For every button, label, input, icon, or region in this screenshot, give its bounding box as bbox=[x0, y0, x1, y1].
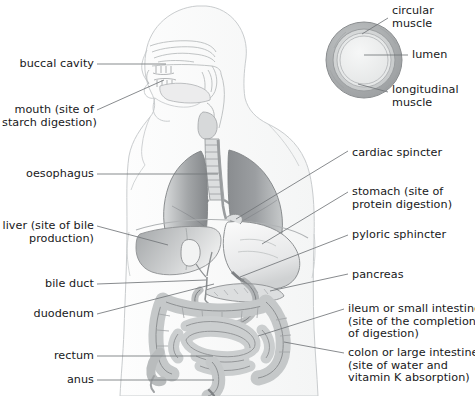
label-circular-muscle: circular muscle bbox=[392, 5, 474, 30]
label-oesophagus: oesophagus bbox=[2, 168, 94, 181]
diagram-canvas: buccal cavity mouth (site of starch dige… bbox=[0, 0, 475, 396]
label-anus: anus bbox=[2, 374, 94, 387]
label-lumen: lumen bbox=[412, 49, 474, 62]
label-pancreas: pancreas bbox=[352, 269, 475, 282]
label-pyloric-sphincter: pyloric sphincter bbox=[352, 229, 475, 242]
label-stomach: stomach (site of protein digestion) bbox=[352, 186, 475, 211]
label-liver: liver (site of bile production) bbox=[2, 220, 94, 245]
label-mouth: mouth (site of starch digestion) bbox=[2, 104, 94, 129]
gut-cross-section-inset bbox=[326, 22, 402, 98]
label-bile-duct: bile duct bbox=[2, 278, 94, 291]
label-duodenum: duodenum bbox=[2, 308, 94, 321]
label-longitudinal-muscle: longitudinal muscle bbox=[392, 84, 475, 109]
label-cardiac-sphincter: cardiac spincter bbox=[352, 147, 475, 160]
label-rectum: rectum bbox=[2, 350, 94, 363]
lumen-area bbox=[340, 36, 388, 84]
label-ileum: ileum or small intestine (site of the co… bbox=[348, 303, 475, 341]
label-buccal-cavity: buccal cavity bbox=[2, 58, 94, 71]
label-colon: colon or large intestine (site of water … bbox=[348, 347, 475, 385]
gallbladder bbox=[181, 239, 200, 266]
